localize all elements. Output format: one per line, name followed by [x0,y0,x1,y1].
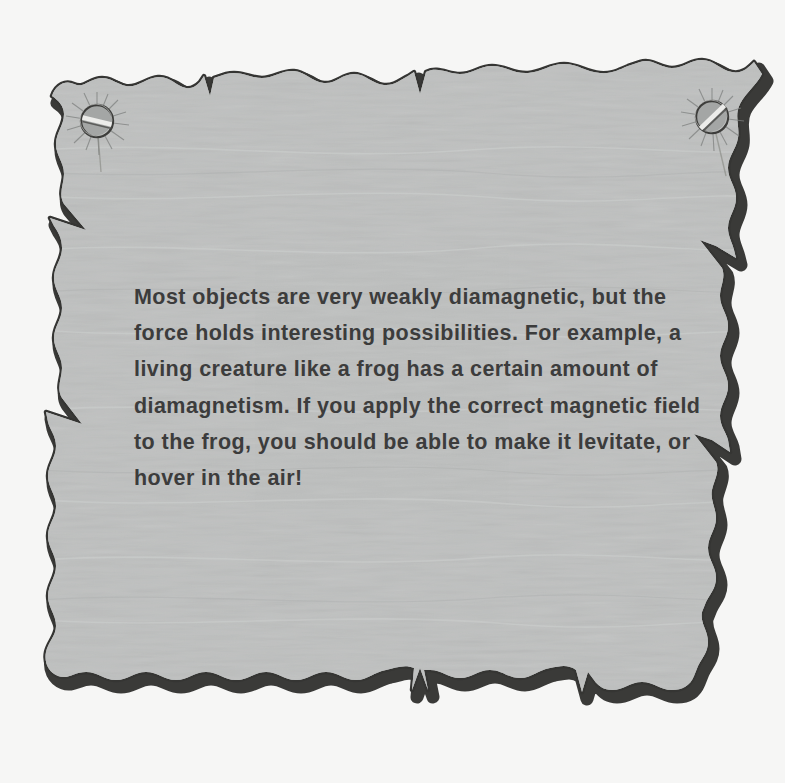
note-canvas: Most objects are very weakly diamagnetic… [0,0,785,783]
slotted-screw-icon [691,96,733,138]
slotted-screw-icon [76,100,118,142]
note-body-text: Most objects are very weakly diamagnetic… [134,279,710,496]
